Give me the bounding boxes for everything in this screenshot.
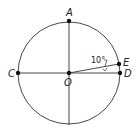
angle-label: 10° (91, 56, 105, 65)
point-a (67, 19, 71, 23)
label-d: D (124, 68, 132, 79)
label-c: C (8, 68, 15, 79)
label-e: E (123, 57, 130, 68)
point-o (67, 71, 71, 75)
label-o: O (64, 77, 72, 88)
circle-diagram: A C O D E 10° (0, 0, 138, 130)
point-d (118, 71, 122, 75)
radius-oe (69, 64, 119, 73)
label-a: A (65, 7, 73, 18)
point-c (16, 71, 20, 75)
point-e (117, 62, 121, 66)
